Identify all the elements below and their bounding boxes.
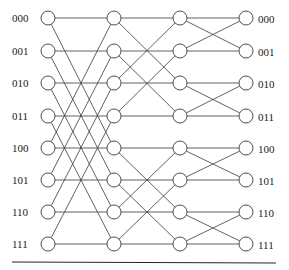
node-circle	[41, 11, 55, 25]
node-circle	[239, 44, 253, 58]
output-label: 011	[258, 111, 274, 123]
output-label: 010	[258, 78, 275, 90]
node-circle	[173, 141, 187, 155]
node-circle	[107, 141, 121, 155]
node-circle	[173, 11, 187, 25]
input-label: 100	[12, 142, 29, 154]
node-circle	[239, 141, 253, 155]
node-circle	[41, 44, 55, 58]
node-circle	[41, 237, 55, 251]
node-circle	[173, 44, 187, 58]
node-circle	[173, 76, 187, 90]
node-circle	[173, 205, 187, 219]
input-label: 001	[12, 45, 29, 57]
node-circle	[239, 11, 253, 25]
node-circle	[107, 76, 121, 90]
output-label: 111	[258, 239, 274, 251]
node-circle	[173, 173, 187, 187]
edges	[51, 18, 240, 244]
node-circle	[107, 237, 121, 251]
node-circle	[41, 173, 55, 187]
node-circle	[41, 141, 55, 155]
node-circle	[173, 109, 187, 123]
node-circle	[239, 173, 253, 187]
input-label: 101	[12, 174, 29, 186]
node-circle	[107, 109, 121, 123]
output-label: 110	[258, 207, 274, 219]
node-circle	[173, 237, 187, 251]
input-label: 011	[12, 110, 28, 122]
node-circle	[107, 205, 121, 219]
output-label: 101	[258, 175, 275, 187]
output-label: 001	[258, 46, 275, 58]
node-circle	[41, 109, 55, 123]
node-circle	[239, 237, 253, 251]
input-label: 010	[12, 77, 29, 89]
bottom-rule	[12, 262, 276, 263]
node-circle	[239, 76, 253, 90]
input-label: 110	[12, 206, 28, 218]
output-label: 100	[258, 143, 275, 155]
butterfly-diagram	[0, 0, 289, 270]
input-label: 111	[12, 238, 28, 250]
node-circle	[107, 44, 121, 58]
node-circle	[107, 173, 121, 187]
node-circle	[41, 76, 55, 90]
node-circle	[107, 11, 121, 25]
input-label: 000	[12, 12, 29, 24]
node-circle	[41, 205, 55, 219]
output-label: 000	[258, 13, 275, 25]
node-circle	[239, 205, 253, 219]
node-circle	[239, 109, 253, 123]
